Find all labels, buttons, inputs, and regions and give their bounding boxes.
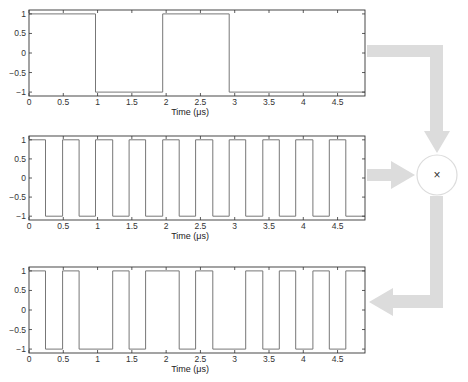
x-tick-label: 3.5 (263, 97, 275, 107)
y-tick-label: −0.5 (9, 68, 26, 78)
mixer-node: × (417, 155, 457, 195)
x-tick-label: 1 (95, 97, 100, 107)
x-tick-label: 0.5 (57, 354, 69, 364)
x-tick-label: 3 (232, 221, 237, 231)
y-tick-label: 0.5 (14, 285, 26, 295)
y-tick-label: −1 (16, 87, 26, 97)
x-tick-label: 1 (95, 354, 100, 364)
arrow-data-to-mixer (367, 45, 450, 153)
y-tick-label: −1 (16, 211, 26, 221)
x-tick-label: 3 (232, 354, 237, 364)
x-tick-label: 4 (301, 354, 306, 364)
plots: 00.511.522.533.544.510.50−0.5−1Time (μs)… (9, 9, 365, 374)
x-tick-label: 4.5 (332, 97, 344, 107)
y-tick-label: 1 (21, 135, 26, 145)
x-tick-label: 3.5 (263, 221, 275, 231)
x-tick-label: 1.5 (126, 97, 138, 107)
x-tick-label: 2 (164, 221, 169, 231)
arrow-mixer-to-output (369, 196, 443, 316)
x-tick-label: 0.5 (57, 221, 69, 231)
y-tick-label: −1 (16, 344, 26, 354)
x-tick-label: 0 (27, 97, 32, 107)
y-tick-label: 1 (21, 266, 26, 276)
x-tick-label: 4 (301, 221, 306, 231)
x-axis-label: Time (μs) (171, 364, 209, 374)
x-axis-label: Time (μs) (171, 231, 209, 241)
x-tick-label: 1.5 (126, 354, 138, 364)
x-tick-label: 0 (27, 354, 32, 364)
y-tick-label: 1 (21, 9, 26, 19)
x-tick-label: 0 (27, 221, 32, 231)
x-tick-label: 3.5 (263, 354, 275, 364)
x-tick-label: 4.5 (332, 354, 344, 364)
modulation-diagram: × 00.511.522.533.544.510.50−0.5−1Time (μ… (0, 0, 468, 382)
x-tick-label: 0.5 (57, 97, 69, 107)
signal-trace (29, 14, 365, 92)
y-tick-label: 0.5 (14, 154, 26, 164)
x-tick-label: 1 (95, 221, 100, 231)
signal-trace (29, 271, 365, 349)
x-tick-label: 3 (232, 97, 237, 107)
y-tick-label: 0.5 (14, 28, 26, 38)
carrier-signal-plot: 00.511.522.533.544.510.50−0.5−1Time (μs) (9, 135, 365, 241)
y-tick-label: 0 (21, 48, 26, 58)
product-signal-plot: 00.511.522.533.544.510.50−0.5−1Time (μs) (9, 266, 365, 374)
y-tick-label: 0 (21, 305, 26, 315)
signal-trace (29, 140, 365, 216)
data-signal-plot: 00.511.522.533.544.510.50−0.5−1Time (μs) (9, 9, 365, 117)
x-tick-label: 2.5 (195, 97, 207, 107)
x-tick-label: 2 (164, 354, 169, 364)
x-tick-label: 2.5 (195, 354, 207, 364)
multiply-icon: × (433, 168, 440, 182)
x-tick-label: 2.5 (195, 221, 207, 231)
x-tick-label: 2 (164, 97, 169, 107)
x-tick-label: 4 (301, 97, 306, 107)
axes-frame (29, 10, 365, 96)
y-tick-label: −0.5 (9, 192, 26, 202)
arrow-carrier-to-mixer (367, 161, 415, 189)
x-axis-label: Time (μs) (171, 107, 209, 117)
x-tick-label: 1.5 (126, 221, 138, 231)
y-tick-label: −0.5 (9, 325, 26, 335)
y-tick-label: 0 (21, 173, 26, 183)
x-tick-label: 4.5 (332, 221, 344, 231)
